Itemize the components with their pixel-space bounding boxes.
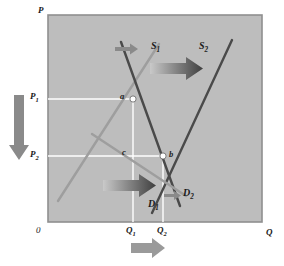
tick-label-p2: P2: [30, 150, 39, 161]
tick-label-q1: Q1: [126, 226, 136, 237]
point-a-marker: [130, 96, 136, 102]
curve-label-s2: S2: [199, 41, 208, 54]
tick-label-p1: P1: [30, 92, 39, 103]
price-decrease-arrow: [9, 95, 29, 160]
curve-label-d1: D1: [148, 199, 159, 212]
axis-label-quantity: Q: [266, 228, 273, 237]
axis-origin-label: 0: [36, 226, 41, 235]
point-label-b: b: [169, 150, 173, 159]
point-b-marker: [160, 153, 166, 159]
tick-label-q2: Q2: [157, 226, 167, 237]
quantity-increase-arrow: [131, 238, 165, 258]
curve-label-d2: D2: [183, 188, 194, 201]
curve-label-s1: S1: [151, 41, 160, 54]
supply-demand-figure: P Q 0 P1 P2 Q1 Q2 S1 S2 D1 D2 a b c: [0, 0, 284, 266]
diagram-canvas: [0, 0, 284, 266]
point-label-c: c: [122, 148, 126, 157]
point-label-a: a: [120, 92, 124, 101]
axis-label-price: P: [38, 6, 44, 15]
